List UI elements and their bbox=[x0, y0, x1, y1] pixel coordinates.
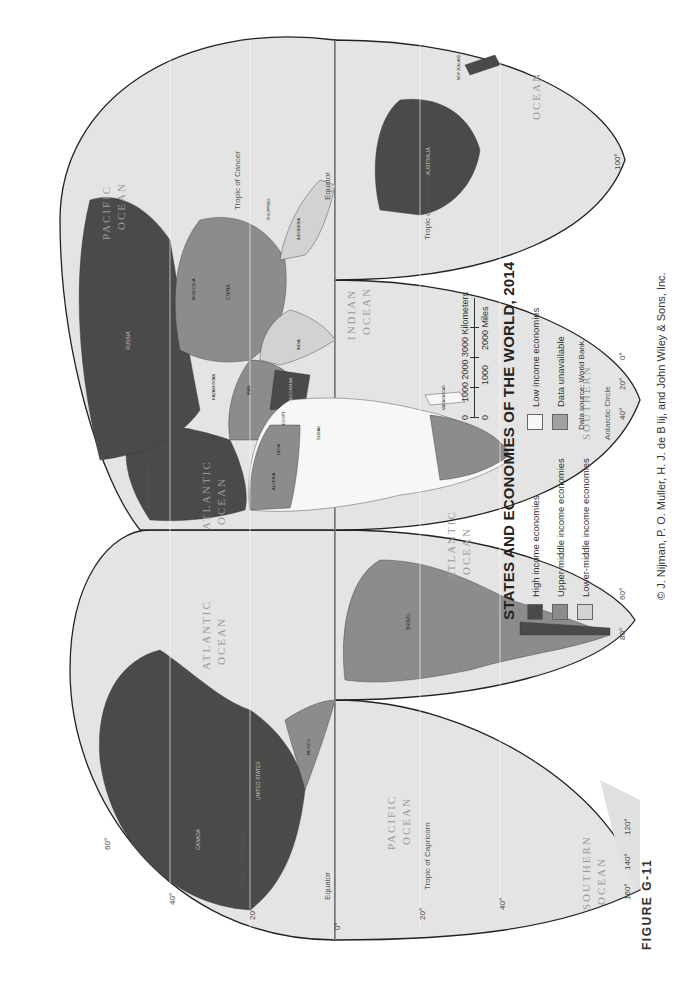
svg-text:20°: 20° bbox=[248, 908, 257, 920]
tropic-cancer-label-e: Tropic of Cancer bbox=[233, 151, 242, 210]
label-egypt: EGYPT bbox=[281, 411, 286, 425]
scale-km-tick-0: 0 bbox=[460, 415, 470, 420]
label-canada: CANADA bbox=[195, 828, 201, 850]
scale-km-ticks: 1000 2000 3000 Kilometers bbox=[460, 292, 470, 402]
tropic-cancer-label-w: Tropic of Cancer bbox=[238, 831, 247, 890]
legend-item-data-unavailable: Data unavailable bbox=[552, 270, 568, 430]
label-kazakhstan: KAZAKHSTAN bbox=[211, 374, 216, 400]
svg-text:20°: 20° bbox=[418, 908, 427, 920]
scale-mi-tick-0: 0 bbox=[480, 415, 490, 420]
svg-text:OCEAN: OCEAN bbox=[360, 287, 372, 335]
svg-text:OCEAN: OCEAN bbox=[115, 182, 127, 230]
svg-text:60°: 60° bbox=[103, 838, 112, 850]
map-figure: PACIFIC OCEAN ATLANTIC OCEAN ATLANTIC OC… bbox=[0, 0, 683, 1000]
swatch-lower-middle-income bbox=[577, 604, 593, 620]
arctic-circle-label: Arctic Circle bbox=[143, 467, 152, 510]
equator-label-e: Equator bbox=[323, 172, 332, 200]
svg-text:0°: 0° bbox=[333, 922, 342, 930]
copyright: © J. Nijman, P. O. Muller, H. J. de B li… bbox=[655, 272, 667, 600]
antarctic-circle-label: Antarctic Circle bbox=[603, 386, 612, 440]
ocean-label-pacific-sw: PACIFIC bbox=[385, 795, 397, 850]
swatch-high-income bbox=[527, 604, 543, 620]
svg-text:OCEAN: OCEAN bbox=[215, 617, 227, 665]
label-madagascar: MADAGASCAR bbox=[442, 385, 446, 410]
ocean-label-atlantic-ne: ATLANTIC bbox=[200, 460, 212, 530]
legend-source: Data source: World Bank. bbox=[577, 270, 593, 430]
label-china: CHINA bbox=[225, 284, 231, 300]
label-iran: IRAN bbox=[246, 385, 251, 395]
ocean-label-atlantic-n: ATLANTIC bbox=[200, 600, 212, 670]
svg-text:120°: 120° bbox=[623, 818, 632, 835]
svg-text:OCEAN: OCEAN bbox=[215, 477, 227, 525]
label-sudan: SUDAN bbox=[316, 426, 321, 440]
svg-text:OCEAN: OCEAN bbox=[460, 527, 472, 575]
scale-mi-label: 2000 Miles bbox=[480, 306, 490, 350]
scale-bar: 0 1000 2000 3000 Kilometers 0 1000 2000 … bbox=[460, 260, 490, 420]
svg-text:OCEAN: OCEAN bbox=[595, 857, 607, 905]
tropic-capricorn-label-w: Tropic of Capricorn bbox=[423, 822, 432, 890]
svg-text:80°: 80° bbox=[618, 628, 627, 640]
label-india: INDIA bbox=[296, 339, 301, 350]
legend-title: STATES AND ECONOMIES OF THE WORLD, 2014 bbox=[500, 260, 517, 620]
label-mexico: MEXICO bbox=[306, 739, 311, 755]
legend-item-high-income: High income economies bbox=[527, 430, 543, 620]
svg-text:40°: 40° bbox=[168, 893, 177, 905]
equator-label-w: Equator bbox=[323, 872, 332, 900]
scale-mi-tick-1: 1000 bbox=[480, 365, 490, 385]
label-new-zealand: NEW ZEALAND bbox=[457, 54, 461, 80]
svg-text:100°: 100° bbox=[613, 153, 622, 170]
label-saudi-arabia: SAUDI ARABIA bbox=[289, 377, 293, 402]
label-australia: AUSTRALIA bbox=[425, 147, 431, 175]
label-indonesia: INDONESIA bbox=[296, 218, 301, 240]
swatch-data-unavailable bbox=[552, 414, 568, 430]
svg-text:0°: 0° bbox=[618, 352, 627, 360]
legend-item-upper-middle-income: Upper-middle income economies bbox=[552, 430, 568, 620]
svg-text:40°: 40° bbox=[618, 408, 627, 420]
svg-text:140°: 140° bbox=[623, 853, 632, 870]
ocean-label-pacific-s: OCEAN bbox=[530, 72, 542, 120]
swatch-low-income bbox=[527, 414, 543, 430]
legend-item-low-income: Low income economies bbox=[527, 270, 543, 430]
svg-text:60°: 60° bbox=[618, 588, 627, 600]
svg-text:40°: 40° bbox=[498, 898, 507, 910]
label-russia: RUSSIA bbox=[125, 331, 131, 350]
label-mongolia: MONGOLIA bbox=[191, 278, 196, 300]
ocean-label-indian: INDIAN bbox=[345, 289, 357, 340]
ocean-label-pacific-nw: PACIFIC bbox=[100, 185, 112, 240]
label-algeria: ALGERIA bbox=[271, 472, 276, 490]
svg-text:20°: 20° bbox=[618, 378, 627, 390]
tropic-capricorn-label-e: Tropic of Capricorn bbox=[423, 172, 432, 240]
swatch-upper-middle-income bbox=[552, 604, 568, 620]
legend-items: High income economies Low income economi… bbox=[527, 260, 593, 620]
figure-label: FIGURE G-11 bbox=[640, 859, 654, 950]
label-brazil: BRAZIL bbox=[405, 612, 411, 630]
legend-item-lower-middle-income: Lower-middle income economies bbox=[577, 430, 593, 620]
svg-text:OCEAN: OCEAN bbox=[400, 797, 412, 845]
label-philippines: PHILIPPINES bbox=[267, 198, 271, 220]
label-usa: UNITED STATES bbox=[255, 761, 261, 800]
ocean-label-atlantic-s: ATLANTIC bbox=[445, 510, 457, 580]
scale-line bbox=[474, 298, 475, 418]
svg-text:160°: 160° bbox=[623, 883, 632, 900]
legend: STATES AND ECONOMIES OF THE WORLD, 2014 … bbox=[500, 260, 593, 620]
ocean-label-southern-w: SOUTHERN bbox=[580, 835, 592, 910]
label-libya: LIBYA bbox=[276, 444, 281, 455]
